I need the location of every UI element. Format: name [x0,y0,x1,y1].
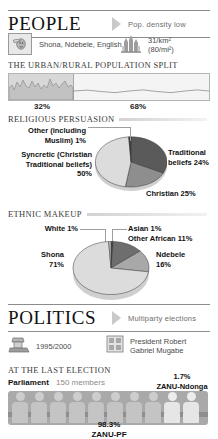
major-party-name: ZANU-PF [91,430,126,439]
politics-tagline: Multiparty elections [128,314,196,323]
major-party-pct: 98.3% [98,420,121,429]
label-other-religion: Other (including Muslim) 1% [4,126,86,145]
pie-religion [95,136,167,188]
label-asian: Asian 1% [128,224,218,234]
languages-label: Shona, Ndebele, English [39,40,122,49]
banner2-rule-bottom [8,331,210,332]
urban-pct: 32% [34,102,50,111]
label-ndebele: Ndebele 16% [156,250,214,269]
label-traditional: Traditional beliefs 24% [168,148,218,167]
religion-heading: RELIGIOUS PERSUASION [8,114,207,124]
leader-line-other [88,127,131,128]
leader-line-asian [113,229,127,230]
urban-rural-chart [8,73,210,101]
buildings-icon [120,33,142,57]
election-dates: 1995/2000 [36,342,71,351]
minor-party-name: ZANU-Ndonga [156,382,207,391]
triangle-icon [112,17,121,31]
ethnic-heading: ETHNIC MAKEUP [8,209,207,219]
leader-line-white [80,229,106,230]
infographic-page: PEOPLE Pop. density low Shona, Ndebele, … [0,0,218,439]
parliament-members: 150 members [56,378,105,387]
page-title-politics: POLITICS [8,307,112,329]
minor-party-callout: 1.7% ZANU-Ndonga [146,372,218,391]
politics-section-banner: POLITICS Multiparty elections [8,304,210,332]
label-white: White 1% [10,224,78,234]
face-icon [8,33,32,55]
languages-fact: Shona, Ndebele, English [8,33,122,55]
page-title-people: PEOPLE [8,13,112,35]
label-shona: Shona 71% [6,250,64,269]
people-tagline: Pop. density low [128,20,186,29]
triangle-icon-2 [112,311,121,325]
urban-rural-heading: THE URBAN/RURAL POPULATION SPLIT [8,60,178,70]
pie-ethnic [72,241,150,295]
density-values: 31/km² (80/mi²) [148,36,174,54]
major-party-callout: 98.3% ZANU-PF [0,420,218,439]
density-imperial: (80/mi²) [148,45,174,54]
density-fact: 31/km² (80/mi²) [120,33,174,57]
monument-icon [8,335,30,357]
election-dates-fact: 1995/2000 [8,335,71,357]
label-christian: Christian 25% [146,189,218,199]
density-metric: 31/km² [148,36,171,45]
label-syncretic: Syncretic (Christian Traditional beliefs… [0,150,92,179]
portrait-icon [106,335,124,357]
parliament-label: Parliament [8,378,49,387]
leader-fact: President Robert Gabriel Mugabe [106,335,186,357]
leader-name: President Robert Gabriel Mugabe [130,337,186,355]
minor-party-pct: 1.7% [173,372,190,381]
rural-pct: 68% [130,102,146,111]
last-election-heading: AT THE LAST ELECTION [8,365,111,375]
leader-line-other-v [130,127,131,141]
